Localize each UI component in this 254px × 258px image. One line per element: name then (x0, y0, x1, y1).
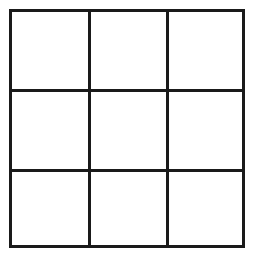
cell-0-2[interactable] (169, 12, 242, 89)
cell-1-2[interactable] (169, 92, 242, 169)
cell-2-0[interactable] (12, 172, 88, 245)
cell-1-0[interactable] (12, 92, 88, 169)
tic-tac-toe-board (9, 9, 245, 248)
cell-0-1[interactable] (91, 12, 166, 89)
cell-2-2[interactable] (169, 172, 242, 245)
cell-2-1[interactable] (91, 172, 166, 245)
cell-1-1[interactable] (91, 92, 166, 169)
cell-0-0[interactable] (12, 12, 88, 89)
